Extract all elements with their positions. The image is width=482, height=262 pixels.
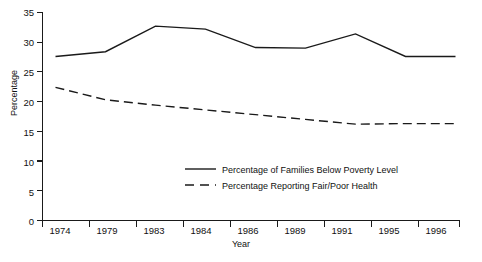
series-line-health [56,87,456,124]
x-axis-ticks [43,221,460,227]
series-line-poverty [56,26,456,56]
chart-canvas [0,0,482,262]
y-axis-ticks [37,13,43,221]
chart-figure: Percentage Year 35 30 25 20 15 10 5 0 19… [0,0,482,262]
